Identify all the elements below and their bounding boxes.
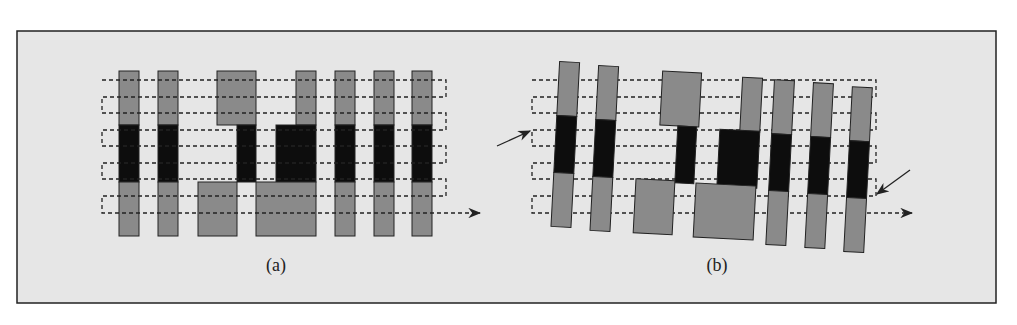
strip-a5: [335, 71, 355, 236]
strip-a6: [374, 71, 394, 236]
strip-a1: [119, 71, 139, 236]
caption-b: (b): [707, 255, 728, 276]
strip-a7: [412, 71, 432, 236]
caption-a: (a): [266, 255, 286, 276]
figure-diagram: (a): [0, 0, 1017, 325]
strip-a2: [158, 71, 178, 236]
